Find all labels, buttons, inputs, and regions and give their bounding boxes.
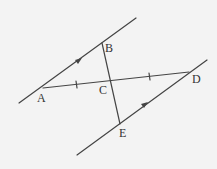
- point-label-A: A: [37, 92, 46, 104]
- point-label-C: C: [99, 84, 107, 96]
- diagram-svg: [0, 0, 217, 169]
- lower-parallel-line: [77, 60, 207, 155]
- point-label-D: D: [192, 73, 201, 85]
- parallel-arrow-icon-upper: [75, 58, 82, 64]
- segment-AD: [43, 72, 189, 88]
- tick-mark-AC: [76, 81, 77, 88]
- geometry-diagram: A B C D E: [0, 0, 217, 169]
- point-label-E: E: [119, 127, 126, 139]
- tick-mark-CD: [149, 73, 150, 80]
- point-label-B: B: [105, 42, 113, 54]
